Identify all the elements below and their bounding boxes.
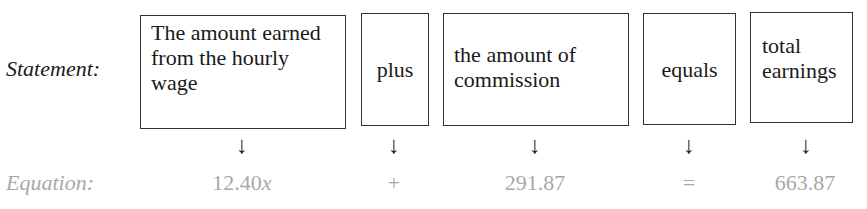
box-text: plus bbox=[377, 57, 414, 82]
down-arrow-icon: ↓ bbox=[222, 132, 262, 159]
box-text: the amount of commission bbox=[454, 42, 576, 92]
coefficient: 12.40 bbox=[212, 170, 262, 195]
statement-box-equals: equals bbox=[643, 13, 736, 125]
down-arrow-icon: ↓ bbox=[669, 132, 709, 159]
equation-equals-sign: = bbox=[669, 170, 709, 196]
variable: x bbox=[262, 170, 272, 195]
box-text: equals bbox=[661, 57, 717, 82]
equation-term-wage: 12.40x bbox=[192, 170, 292, 196]
down-arrow-icon: ↓ bbox=[786, 132, 826, 159]
down-arrow-icon: ↓ bbox=[515, 132, 555, 159]
statement-box-commission: the amount of commission bbox=[443, 13, 629, 126]
down-arrow-icon: ↓ bbox=[374, 132, 414, 159]
equation-term-commission: 291.87 bbox=[490, 170, 580, 196]
statement-box-total-earnings: total earnings bbox=[750, 12, 853, 123]
box-text: The amount earned from the hourly wage bbox=[151, 20, 321, 95]
equation-label: Equation: bbox=[6, 170, 94, 196]
statement-box-plus: plus bbox=[361, 13, 429, 126]
equation-total: 663.87 bbox=[760, 170, 850, 196]
statement-box-hourly-wage: The amount earned from the hourly wage bbox=[140, 15, 346, 129]
equation-plus-sign: + bbox=[374, 170, 414, 196]
statement-label: Statement: bbox=[6, 56, 100, 82]
box-text: total earnings bbox=[762, 33, 837, 83]
